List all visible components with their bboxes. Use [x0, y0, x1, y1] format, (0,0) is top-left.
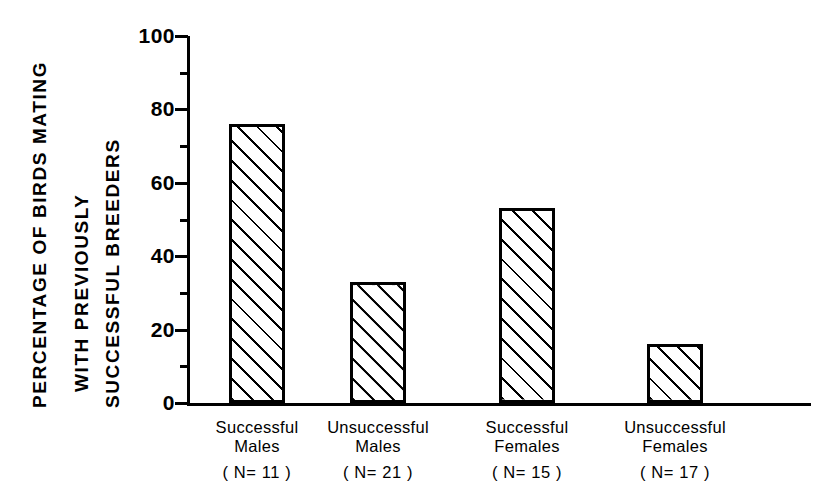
y-tick-minor: [180, 292, 188, 295]
y-tick-label: 0: [85, 392, 175, 413]
y-tick-major: [175, 255, 188, 258]
bar: [229, 124, 285, 403]
y-tick-major: [175, 329, 188, 332]
y-tick-major: [175, 402, 188, 405]
y-axis-title-line-2: WITH PREVIOUSLY: [72, 193, 91, 392]
bar: [350, 282, 406, 403]
category-label: UnsuccessfulFemales( N= 17 ): [585, 418, 765, 482]
y-tick-minor: [180, 145, 188, 148]
y-tick-label: 40: [85, 245, 175, 266]
y-tick-label: 100: [85, 25, 175, 46]
y-tick-major: [175, 35, 188, 38]
y-tick-major: [175, 182, 188, 185]
y-tick-major: [175, 108, 188, 111]
y-axis-title-line-1: PERCENTAGE OF BIRDS MATING: [30, 61, 49, 408]
category-label-line: Unsuccessful: [585, 418, 765, 437]
y-tick-label: 80: [85, 98, 175, 119]
y-tick-minor: [180, 365, 188, 368]
bar: [499, 208, 555, 403]
bar-chart: PERCENTAGE OF BIRDS MATING WITH PREVIOUS…: [0, 0, 824, 501]
bar: [647, 344, 703, 403]
sample-size-label: ( N= 17 ): [585, 463, 765, 482]
x-axis-line: [187, 403, 811, 406]
category-label-line: Females: [585, 437, 765, 456]
y-tick-minor: [180, 219, 188, 222]
y-tick-minor: [180, 72, 188, 75]
y-tick-label: 20: [85, 319, 175, 340]
y-tick-label: 60: [85, 172, 175, 193]
